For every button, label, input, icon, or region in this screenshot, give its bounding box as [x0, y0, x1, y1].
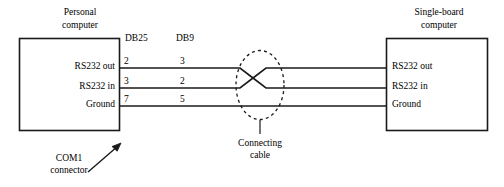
com-connector-annotation-line1: COM1: [33, 152, 105, 164]
column-header-db25: DB25: [125, 32, 148, 44]
com-connector-annotation: COM1 connector: [33, 152, 105, 176]
right-signal-label-ground: Ground: [392, 98, 421, 110]
com-connector-annotation-line2: connector: [33, 164, 105, 176]
db25-pin-rs232-out: 2: [124, 55, 129, 67]
rs232-wiring-diagram: Personal computer Single-board computer …: [0, 0, 504, 187]
wire-rs232-in-crossover: [120, 68, 387, 88]
left-signal-label-ground: Ground: [29, 98, 115, 110]
right-signal-label-rs232-in: RS232 in: [392, 80, 428, 92]
connecting-cable-annotation-line2: cable: [220, 149, 300, 161]
personal-computer-title-line2: computer: [44, 19, 116, 32]
personal-computer-title: Personal computer: [44, 6, 116, 31]
connecting-cable-annotation-line1: Connecting: [220, 137, 300, 149]
single-board-computer-title-line1: Single-board: [399, 6, 479, 19]
connecting-cable-annotation: Connecting cable: [220, 137, 300, 161]
db9-pin-rs232-in: 2: [180, 75, 185, 87]
right-signal-label-rs232-out: RS232 out: [392, 60, 432, 72]
column-header-db9: DB9: [176, 32, 194, 44]
single-board-computer-title-line2: computer: [399, 19, 479, 32]
db25-pin-ground: 7: [124, 93, 129, 105]
left-signal-label-rs232-in: RS232 in: [29, 80, 115, 92]
db25-pin-rs232-in: 3: [124, 75, 129, 87]
personal-computer-title-line1: Personal: [44, 6, 116, 19]
single-board-computer-title: Single-board computer: [399, 6, 479, 31]
db9-pin-rs232-out: 3: [180, 55, 185, 67]
left-signal-label-rs232-out: RS232 out: [29, 60, 115, 72]
db9-pin-ground: 5: [180, 93, 185, 105]
